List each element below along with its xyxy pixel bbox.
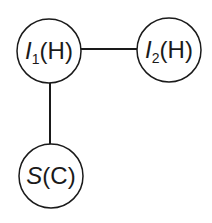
node-i2: I2(H) xyxy=(137,18,201,82)
diagram-canvas: I1(H) I2(H) S(C) xyxy=(0,0,212,223)
node-s: S(C) xyxy=(19,144,83,208)
node-i1: I1(H) xyxy=(17,19,81,83)
svg-text:S(C): S(C) xyxy=(26,162,75,189)
